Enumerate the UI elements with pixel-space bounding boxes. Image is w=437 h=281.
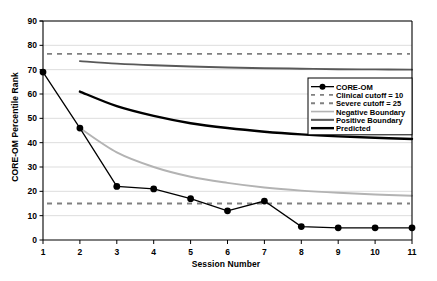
svg-text:90: 90	[28, 16, 38, 26]
svg-text:9: 9	[336, 247, 341, 257]
svg-text:80: 80	[28, 40, 38, 50]
svg-text:0: 0	[32, 235, 37, 245]
plot-area: 0102030405060708090 1234567891011 CORE-O…	[0, 0, 437, 281]
svg-text:70: 70	[28, 65, 38, 75]
svg-text:5: 5	[188, 247, 193, 257]
svg-text:10: 10	[28, 211, 38, 221]
svg-text:3: 3	[114, 247, 119, 257]
y-axis-tick-labels: 0102030405060708090	[28, 16, 38, 245]
svg-text:30: 30	[28, 162, 38, 172]
svg-text:8: 8	[299, 247, 304, 257]
svg-text:40: 40	[28, 138, 38, 148]
core-om-percentile-chart: CORE-OM Percentile Rank Session Number 0…	[0, 0, 437, 281]
legend: CORE-OMClinical cutoff = 10Severe cutoff…	[308, 78, 412, 135]
svg-text:Predicted: Predicted	[336, 124, 371, 133]
svg-text:10: 10	[370, 247, 380, 257]
svg-text:2: 2	[78, 247, 83, 257]
svg-text:6: 6	[225, 247, 230, 257]
svg-text:11: 11	[408, 247, 417, 257]
svg-text:4: 4	[151, 247, 156, 257]
svg-text:1: 1	[41, 247, 46, 257]
x-axis-tick-labels: 1234567891011	[41, 240, 417, 257]
svg-text:20: 20	[28, 186, 38, 196]
svg-text:50: 50	[28, 113, 38, 123]
svg-text:7: 7	[262, 247, 267, 257]
svg-text:60: 60	[28, 89, 38, 99]
